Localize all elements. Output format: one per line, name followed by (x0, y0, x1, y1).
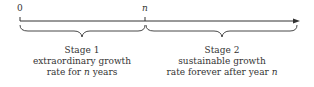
stage-1-brace (20, 25, 145, 37)
stage-2-brace (146, 25, 297, 37)
stage-1-line2: rate for n years (22, 67, 142, 78)
arrow-head-icon (293, 19, 300, 24)
timeline-start-label: 0 (17, 3, 23, 13)
stage-2-label: Stage 2 sustainable growth rate forever … (158, 45, 286, 78)
stage-1-line1: extraordinary growth (22, 56, 142, 67)
stage-1-label: Stage 1 extraordinary growth rate for n … (22, 45, 142, 78)
timeline-mid-label: n (142, 3, 148, 13)
two-stage-growth-diagram: 0 n Stage 1 extraordinary growth rate fo… (0, 0, 314, 87)
stage-2-title: Stage 2 (158, 45, 286, 56)
stage-1-title: Stage 1 (22, 45, 142, 56)
stage-2-line1: sustainable growth (158, 56, 286, 67)
stage-2-line2: rate forever after year n (158, 67, 286, 78)
